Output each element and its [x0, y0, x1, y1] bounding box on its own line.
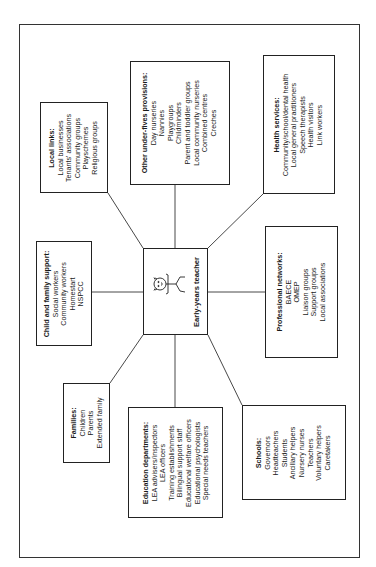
list-item: Educational welfare officers — [184, 419, 193, 507]
stick-figure-teacher-icon — [152, 271, 188, 301]
education-departments-box: Education departments: LEA advisers/insp… — [128, 407, 223, 518]
list-item: OMEP — [293, 252, 302, 331]
under-fives-box: Other under-fives provisions: Day nurser… — [130, 61, 230, 185]
schools-box: Schools: Governors Headteachers Students… — [242, 405, 346, 500]
list-item: NSPCC — [77, 250, 86, 337]
professional-networks-box: Professional networks: BAECE OMEP Liaiso… — [265, 226, 338, 358]
list-item: LEA officers — [158, 419, 167, 507]
center-label: Early-years teacher — [192, 256, 201, 326]
families-box: Families: Children Parents Extended fami… — [63, 383, 110, 463]
families-title: Families: — [69, 397, 78, 448]
local-links-box: Local links: Local businesses Tenants' a… — [40, 102, 108, 193]
list-item: Parents — [87, 397, 96, 448]
professional-networks-title: Professional networks: — [276, 252, 285, 331]
list-item: Creches — [210, 73, 219, 174]
list-item: Link workers — [316, 73, 325, 175]
list-item: Local associations — [319, 252, 328, 331]
education-departments-title: Education departments: — [141, 419, 150, 507]
health-services-box: Health services: Community/school/dental… — [263, 55, 335, 194]
list-item: Caretakers — [324, 425, 333, 481]
list-item: Religious groups — [91, 113, 100, 181]
list-item: Extended family — [95, 397, 104, 448]
early-years-teacher-box: Early-years teacher — [143, 248, 208, 335]
list-item: Special needs teachers — [201, 419, 210, 507]
child-family-support-box: Child and family support: Social workers… — [36, 241, 92, 346]
